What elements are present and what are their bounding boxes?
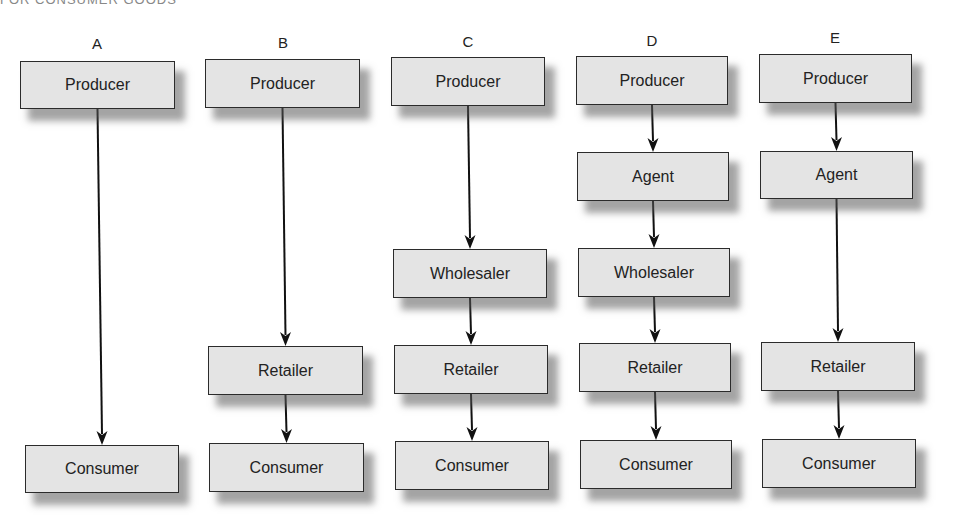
chain-c-consumer: Consumer bbox=[395, 441, 549, 490]
chain-e-label: E bbox=[830, 30, 840, 45]
chain-e-consumer: Consumer bbox=[762, 439, 916, 488]
chain-d-label: D bbox=[647, 33, 658, 48]
chain-c-retailer: Retailer bbox=[394, 345, 548, 394]
chain-b-producer: Producer bbox=[205, 59, 360, 108]
figure-caption: FOR CONSUMER GOODS bbox=[0, 0, 177, 7]
chain-d-retailer: Retailer bbox=[579, 343, 731, 392]
chain-b-consumer: Consumer bbox=[209, 443, 364, 492]
chain-d-consumer: Consumer bbox=[580, 440, 732, 489]
chain-a-producer: Producer bbox=[20, 61, 175, 109]
chain-c-label: C bbox=[463, 34, 474, 49]
chain-d-wholesaler: Wholesaler bbox=[578, 248, 730, 297]
chain-c-producer: Producer bbox=[391, 57, 545, 106]
chain-b-retailer: Retailer bbox=[208, 346, 363, 395]
chain-c-wholesaler: Wholesaler bbox=[393, 249, 547, 298]
chain-e-retailer: Retailer bbox=[761, 342, 915, 391]
chain-a-consumer: Consumer bbox=[25, 445, 179, 493]
chain-a-label: A bbox=[92, 36, 102, 51]
chain-d-agent: Agent bbox=[577, 152, 729, 201]
chain-e-agent: Agent bbox=[760, 151, 913, 199]
chain-e-producer: Producer bbox=[759, 54, 912, 103]
chain-d-producer: Producer bbox=[576, 56, 728, 105]
chain-b-label: B bbox=[278, 35, 288, 50]
